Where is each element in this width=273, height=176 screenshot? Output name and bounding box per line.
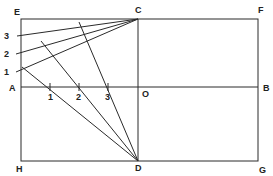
label-B: B bbox=[263, 83, 270, 93]
line-1-C bbox=[16, 19, 138, 72]
label-O: O bbox=[142, 89, 149, 99]
tick-label-3: 3 bbox=[105, 92, 110, 102]
line-3-C bbox=[17, 19, 138, 36]
line-2-D bbox=[41, 41, 138, 161]
label-G: G bbox=[259, 165, 266, 175]
label-A: A bbox=[9, 83, 16, 93]
label-D: D bbox=[135, 163, 142, 173]
left-mark-3: 3 bbox=[4, 31, 9, 41]
geometry-diagram: E C F A O B H D G 3 2 1 1 2 3 bbox=[0, 0, 273, 176]
outer-rectangle bbox=[21, 19, 258, 161]
label-C: C bbox=[135, 5, 142, 15]
tick-label-2: 2 bbox=[76, 92, 81, 102]
left-mark-1: 1 bbox=[4, 67, 9, 77]
line-1-D bbox=[22, 67, 138, 161]
tick-label-1: 1 bbox=[48, 92, 53, 102]
label-H: H bbox=[16, 164, 23, 174]
line-2-C bbox=[16, 19, 138, 54]
label-F: F bbox=[258, 5, 264, 15]
left-mark-2: 2 bbox=[4, 49, 9, 59]
label-E: E bbox=[14, 7, 20, 17]
